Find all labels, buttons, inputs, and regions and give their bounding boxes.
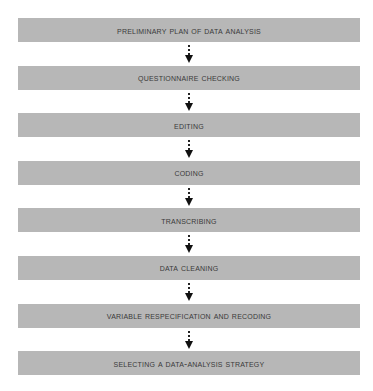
step-questionnaire-checking: Questionnaire Checking xyxy=(18,66,360,90)
step-label: Preliminary Plan of Data Analysis xyxy=(117,25,261,36)
arrow-connector xyxy=(18,137,360,161)
arrow-down-icon xyxy=(185,341,193,349)
data-preparation-flowchart: Preliminary Plan of Data Analysis Questi… xyxy=(18,18,360,375)
step-label: Selecting a Data-Analysis Strategy xyxy=(114,358,265,369)
step-coding: Coding xyxy=(18,161,360,185)
dotted-line-icon xyxy=(188,45,190,55)
arrow-down-icon xyxy=(185,150,193,158)
step-label: Questionnaire Checking xyxy=(138,72,240,83)
step-variable-respecification: Variable Respecification and Recoding xyxy=(18,304,360,328)
arrow-connector xyxy=(18,185,360,209)
dotted-line-icon xyxy=(188,331,190,341)
arrow-down-icon xyxy=(185,198,193,206)
step-label: Variable Respecification and Recoding xyxy=(107,310,271,321)
arrow-down-icon xyxy=(185,103,193,111)
dotted-line-icon xyxy=(188,188,190,198)
dotted-line-icon xyxy=(188,140,190,150)
step-label: Coding xyxy=(174,167,203,178)
step-transcribing: Transcribing xyxy=(18,208,360,232)
arrow-connector xyxy=(18,232,360,256)
arrow-down-icon xyxy=(185,55,193,63)
dotted-line-icon xyxy=(188,93,190,103)
step-label: Transcribing xyxy=(161,215,216,226)
step-data-cleaning: Data Cleaning xyxy=(18,256,360,280)
dotted-line-icon xyxy=(188,235,190,245)
step-selecting-strategy: Selecting a Data-Analysis Strategy xyxy=(18,351,360,375)
arrow-connector xyxy=(18,42,360,66)
step-editing: Editing xyxy=(18,113,360,137)
step-preliminary-plan: Preliminary Plan of Data Analysis xyxy=(18,18,360,42)
arrow-connector xyxy=(18,280,360,304)
arrow-connector xyxy=(18,90,360,114)
step-label: Editing xyxy=(174,120,204,131)
step-label: Data Cleaning xyxy=(160,262,219,273)
arrow-connector xyxy=(18,328,360,352)
dotted-line-icon xyxy=(188,283,190,293)
arrow-down-icon xyxy=(185,293,193,301)
arrow-down-icon xyxy=(185,245,193,253)
